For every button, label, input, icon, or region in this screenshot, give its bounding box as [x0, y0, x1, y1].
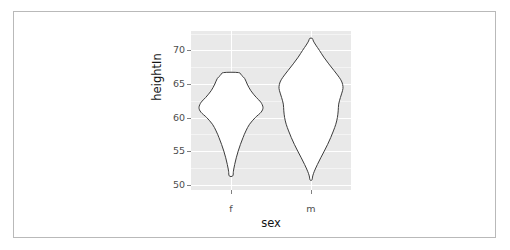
- y-axis-tick-mark: [187, 50, 191, 51]
- y-axis-tick-label: 70: [173, 45, 185, 55]
- y-axis-tick-mark: [187, 151, 191, 152]
- y-axis-tick-label: 55: [173, 146, 185, 156]
- y-axis-tick-label: 60: [173, 113, 185, 123]
- y-axis-tick-mark: [187, 118, 191, 119]
- violin-shapes: [191, 31, 351, 190]
- violin-shape-f: [199, 72, 263, 176]
- x-axis-title: sex: [191, 216, 351, 230]
- violin-shape-m: [279, 38, 343, 180]
- x-axis-tick-mark: [231, 190, 232, 194]
- y-axis-title: heightIn: [150, 37, 164, 117]
- plot-panel: [191, 31, 351, 190]
- x-axis-tick-mark: [311, 190, 312, 194]
- y-axis-tick-mark: [187, 84, 191, 85]
- y-axis-tick-label: 65: [173, 79, 185, 89]
- y-axis-tick-mark: [187, 185, 191, 186]
- y-axis-tick-label: 50: [173, 180, 185, 190]
- violin-plot: 5055606570 fm sex heightIn: [0, 0, 510, 250]
- x-axis-tick-label: f: [216, 203, 246, 214]
- x-axis-tick-label: m: [296, 203, 326, 214]
- y-axis-tick-labels: 5055606570: [165, 31, 185, 190]
